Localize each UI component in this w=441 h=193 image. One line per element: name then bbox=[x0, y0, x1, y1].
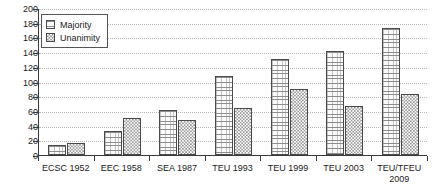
bar-majority bbox=[271, 59, 289, 155]
majority-swatch-icon bbox=[46, 20, 55, 29]
x-tick-mark bbox=[316, 156, 317, 161]
bar-unanimity bbox=[234, 108, 252, 155]
x-tick-mark bbox=[94, 156, 95, 161]
chart-legend: Majority Unanimity bbox=[41, 14, 108, 48]
x-tick-label: TEU/TFEU 2009 bbox=[371, 163, 427, 185]
bar-majority bbox=[159, 110, 177, 155]
bar-group bbox=[271, 9, 308, 155]
x-tick-label: TEU 1999 bbox=[260, 163, 316, 174]
x-tick-mark bbox=[427, 156, 428, 161]
x-tick-label: TEU 2003 bbox=[316, 163, 372, 174]
bar-group bbox=[159, 9, 196, 155]
legend-label-majority: Majority bbox=[60, 20, 92, 30]
unanimity-swatch-icon bbox=[46, 33, 55, 42]
bar-group bbox=[104, 9, 141, 155]
bar-unanimity bbox=[123, 118, 141, 155]
legend-item-majority: Majority bbox=[46, 18, 100, 31]
x-tick-mark bbox=[149, 156, 150, 161]
x-tick-label: ECSC 1952 bbox=[38, 163, 94, 174]
bar-majority bbox=[48, 145, 66, 155]
bar-majority bbox=[382, 28, 400, 155]
x-tick-mark bbox=[371, 156, 372, 161]
x-tick-mark bbox=[205, 156, 206, 161]
bar-unanimity bbox=[67, 143, 85, 155]
x-tick-label: SEA 1987 bbox=[149, 163, 205, 174]
x-tick-label: TEU 1993 bbox=[205, 163, 261, 174]
bar-majority bbox=[104, 131, 122, 155]
x-tick-label: EEC 1958 bbox=[94, 163, 150, 174]
bar-unanimity bbox=[345, 106, 363, 155]
bar-group bbox=[326, 9, 363, 155]
y-axis: 020406080100120140160180200 bbox=[0, 0, 38, 193]
bar-unanimity bbox=[178, 120, 196, 155]
x-tick-mark bbox=[260, 156, 261, 161]
x-tick-mark bbox=[38, 156, 39, 161]
bar-group bbox=[215, 9, 252, 155]
legend-label-unanimity: Unanimity bbox=[60, 33, 100, 43]
bar-majority bbox=[215, 76, 233, 155]
bar-majority bbox=[326, 51, 344, 155]
legend-item-unanimity: Unanimity bbox=[46, 31, 100, 44]
bar-group bbox=[382, 9, 419, 155]
bar-unanimity bbox=[290, 89, 308, 155]
bar-unanimity bbox=[401, 94, 419, 155]
bar-chart: 020406080100120140160180200 ECSC 1952EEC… bbox=[0, 0, 441, 193]
